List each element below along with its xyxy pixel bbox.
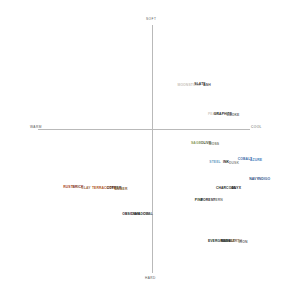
data-point-label: COAL bbox=[143, 213, 153, 216]
data-point-label: IRON bbox=[239, 241, 248, 244]
data-point-label: ASH bbox=[203, 84, 210, 87]
vertical-axis-line bbox=[152, 25, 153, 273]
data-point-label: FERN bbox=[213, 199, 223, 202]
axis-label-top: SOFT bbox=[146, 18, 156, 21]
axis-label-left: WARM bbox=[30, 126, 42, 129]
perceptual-map-chart: SOFT HARD WARM COOL MOONSTONESLATEASHPEA… bbox=[0, 0, 286, 299]
data-point-label: CLAY bbox=[81, 187, 90, 190]
data-point-label: STEEL bbox=[209, 161, 220, 164]
data-point-label: SAGE bbox=[191, 142, 201, 145]
data-point-label: DUSK bbox=[229, 162, 239, 165]
data-point-label: AMBER bbox=[115, 188, 128, 191]
data-point-label: SMOKE bbox=[227, 114, 240, 117]
data-point-label: ONYX bbox=[231, 187, 241, 190]
axis-label-bottom: HARD bbox=[145, 277, 156, 280]
data-point-label: MOSS bbox=[209, 143, 219, 146]
data-point-label: AZURE bbox=[250, 159, 262, 162]
data-point-label: RUST bbox=[63, 186, 73, 189]
horizontal-axis-line bbox=[38, 129, 250, 130]
axis-label-right: COOL bbox=[251, 126, 262, 129]
data-point-label: INDIGO bbox=[258, 178, 271, 181]
